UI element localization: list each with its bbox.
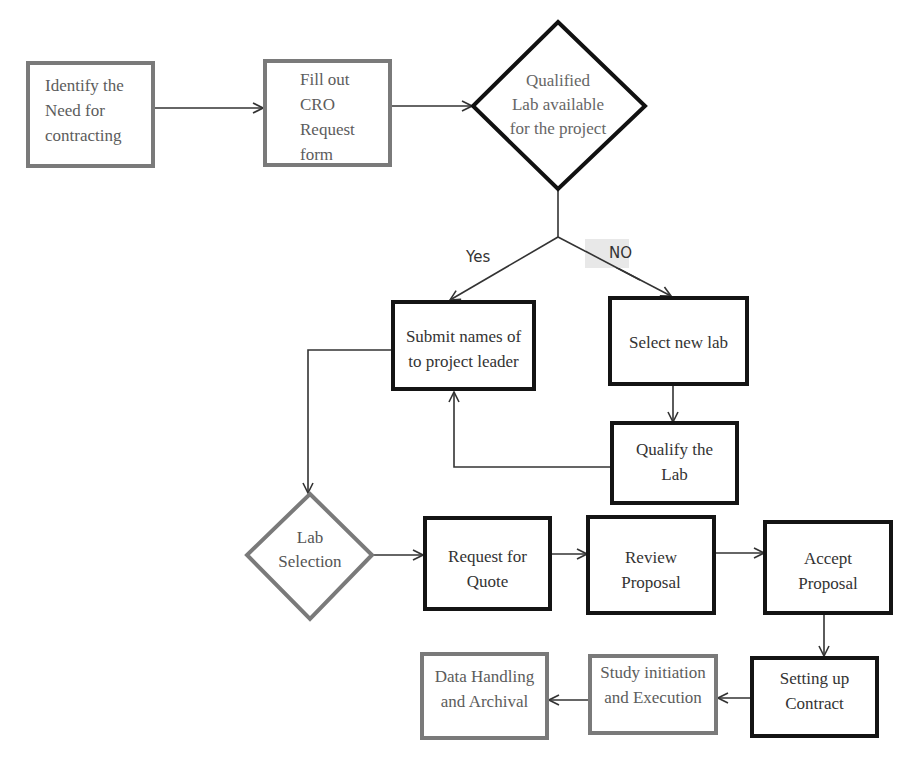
- node-qualify-lab: Qualify the Lab: [610, 421, 739, 505]
- node-fill-cro-form-label: Fill out CRO Request form: [300, 67, 355, 167]
- node-review-proposal: Review Proposal: [586, 515, 716, 615]
- node-study-initiation: Study initiation and Execution: [588, 654, 718, 735]
- node-study-initiation-label: Study initiation and Execution: [600, 660, 705, 710]
- node-submit-names-label: Submit names of to project leader: [406, 324, 521, 374]
- node-data-handling-label: Data Handling and Archival: [435, 664, 535, 714]
- lab-selection-text: Lab Selection: [278, 526, 341, 574]
- node-select-new-lab-label: Select new lab: [629, 330, 728, 355]
- node-identify-need-label: Identify the Need for contracting: [45, 73, 124, 148]
- yes-branch-label: Yes: [466, 248, 490, 266]
- node-lab-selection-label: Lab Selection: [262, 520, 358, 580]
- node-request-quote-label: Request for Quote: [448, 544, 527, 594]
- node-qualified-lab-label: Qualified Lab available for the project: [498, 70, 618, 140]
- arrow-submit-to-labselection: [308, 350, 392, 493]
- no-label-text: NO: [609, 244, 632, 262]
- node-setting-contract: Setting up Contract: [750, 656, 879, 738]
- flowchart-canvas: NO Yes Identify the Need for contracting…: [0, 0, 918, 774]
- no-branch-label: NO: [585, 239, 629, 268]
- node-review-proposal-label: Review Proposal: [621, 545, 681, 595]
- node-request-quote: Request for Quote: [423, 516, 552, 611]
- node-accept-proposal: Accept Proposal: [763, 520, 893, 615]
- qualified-lab-text: Qualified Lab available for the project: [510, 69, 606, 141]
- arrow-qualify-to-submit: [454, 392, 612, 467]
- node-fill-cro-form: Fill out CRO Request form: [263, 59, 392, 167]
- arrow-yes: [450, 237, 558, 300]
- node-select-new-lab: Select new lab: [608, 296, 749, 386]
- node-accept-proposal-label: Accept Proposal: [798, 546, 858, 596]
- node-qualify-lab-label: Qualify the Lab: [636, 437, 713, 487]
- node-data-handling: Data Handling and Archival: [420, 652, 549, 740]
- node-submit-names: Submit names of to project leader: [391, 300, 536, 391]
- node-setting-contract-label: Setting up Contract: [780, 666, 849, 716]
- node-identify-need: Identify the Need for contracting: [26, 61, 155, 168]
- yes-label-text: Yes: [466, 248, 490, 266]
